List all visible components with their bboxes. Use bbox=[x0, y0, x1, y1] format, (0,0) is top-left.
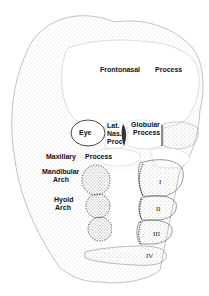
label-proc: Proc bbox=[107, 138, 123, 146]
label-eye: Eye bbox=[79, 129, 91, 137]
pharyngeal-floor bbox=[112, 170, 140, 255]
label-globular: Globular bbox=[131, 121, 160, 129]
hyoid-arch-left bbox=[86, 194, 110, 218]
mandibular-arch-left bbox=[82, 165, 110, 195]
label-lat: Lat. bbox=[107, 122, 119, 130]
label-frontonasal-process: Process bbox=[155, 66, 182, 74]
embryo-illustration bbox=[0, 0, 209, 296]
label-arch-IV: IV bbox=[146, 252, 153, 260]
label-hyoid: Hyoid bbox=[54, 196, 73, 204]
label-globular-process: Process bbox=[133, 129, 160, 137]
label-arch-I: I bbox=[159, 178, 161, 186]
label-frontonasal: Frontonasal bbox=[100, 66, 140, 74]
label-nas: Nas. bbox=[107, 130, 122, 138]
label-arch-III: III bbox=[153, 230, 160, 238]
label-maxillary-process: Process bbox=[85, 153, 112, 161]
third-arch-left bbox=[88, 217, 112, 241]
label-mandibular: Mandibular bbox=[42, 168, 79, 176]
label-mandibular-arch: Arch bbox=[53, 176, 69, 184]
frontonasal-process bbox=[62, 40, 200, 129]
label-hyoid-arch: Arch bbox=[55, 204, 71, 212]
label-maxillary: Maxillary bbox=[46, 153, 76, 161]
label-arch-II: II bbox=[156, 205, 161, 213]
